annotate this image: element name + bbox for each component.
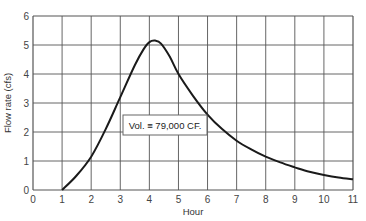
x-tick-labels: 01234567891011 <box>30 194 358 205</box>
x-tick-label: 0 <box>30 194 36 205</box>
y-tick-label: 0 <box>23 185 29 196</box>
y-tick-label: 1 <box>23 156 29 167</box>
volume-annotation: Vol. ≡ 79,000 CF. <box>123 115 207 135</box>
x-tick-label: 10 <box>318 194 330 205</box>
y-tick-labels: 0123456 <box>23 11 29 196</box>
x-tick-label: 6 <box>205 194 211 205</box>
y-tick-label: 2 <box>23 127 29 138</box>
y-tick-label: 5 <box>23 40 29 51</box>
x-tick-label: 3 <box>117 194 123 205</box>
x-tick-label: 9 <box>292 194 298 205</box>
y-tick-label: 6 <box>23 11 29 22</box>
volume-annotation-text: Vol. ≡ 79,000 CF. <box>129 120 202 131</box>
y-tick-label: 3 <box>23 98 29 109</box>
x-tick-label: 11 <box>348 194 359 205</box>
x-axis-label: Hour <box>183 206 204 217</box>
x-tick-label: 2 <box>88 194 94 205</box>
grid <box>33 16 353 190</box>
x-tick-label: 7 <box>234 194 240 205</box>
x-tick-label: 1 <box>59 194 65 205</box>
y-tick-label: 4 <box>23 69 29 80</box>
x-tick-label: 8 <box>263 194 269 205</box>
y-axis-label: Flow rate (cfs) <box>2 73 13 133</box>
x-tick-label: 4 <box>147 194 153 205</box>
x-tick-label: 5 <box>176 194 182 205</box>
hydrograph-chart: 01234567891011 0123456 Vol. ≡ 79,000 CF.… <box>0 0 366 221</box>
